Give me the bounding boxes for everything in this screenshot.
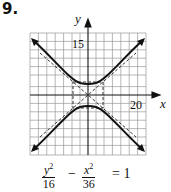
- term1-denominator: 16: [42, 178, 55, 191]
- term2-exponent: 2: [89, 162, 93, 171]
- minus-operator: −: [68, 166, 76, 182]
- term1-fraction: y2 16: [42, 160, 55, 191]
- x-axis-arrow-icon: [152, 92, 160, 98]
- term2-fraction: x2 36: [82, 160, 95, 191]
- term1-exponent: 2: [49, 162, 53, 171]
- y-axis-label: y: [73, 11, 81, 26]
- equals-one: = 1: [112, 166, 130, 182]
- term2-denominator: 36: [82, 178, 95, 191]
- x-axis-label: x: [159, 96, 166, 111]
- y-axis-arrow-icon: [85, 19, 91, 27]
- x-tick-label: 20: [130, 98, 142, 112]
- y-tick-label: 15: [72, 37, 84, 51]
- hyperbola-equation: y2 16 − x2 36 = 1: [42, 160, 152, 192]
